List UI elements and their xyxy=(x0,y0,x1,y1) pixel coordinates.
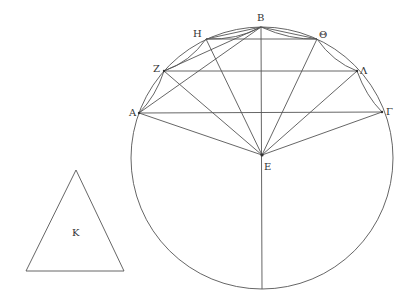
label-Z: Ζ xyxy=(153,63,160,74)
line-B-Theta xyxy=(261,27,317,39)
label-H: Η xyxy=(193,28,202,39)
arc-A-Z xyxy=(139,71,164,113)
label-A: Α xyxy=(128,107,137,118)
label-Theta: Θ xyxy=(319,29,327,40)
arc-Theta-Lambda xyxy=(317,39,357,71)
label-E: Ε xyxy=(264,161,271,172)
chord-A-Gamma xyxy=(139,112,382,113)
label-K: Κ xyxy=(72,227,80,238)
line-E-H xyxy=(206,39,262,155)
line-E-Gamma xyxy=(262,112,382,155)
line-E-Lambda xyxy=(262,71,357,155)
point-E xyxy=(260,153,263,156)
point-Gamma xyxy=(381,111,383,113)
line-B-bottom xyxy=(261,27,262,289)
line-E-Theta xyxy=(262,39,317,155)
arc-Lambda-Gamma xyxy=(357,71,382,112)
line-E-A xyxy=(139,113,262,155)
label-B: Β xyxy=(257,12,264,23)
label-Gamma: Γ xyxy=(386,106,393,117)
point-Z xyxy=(163,70,165,72)
point-A xyxy=(138,112,140,114)
point-Lambda xyxy=(356,70,358,72)
label-Lambda: Λ xyxy=(359,65,368,76)
euclid-diagram: Α Β Γ Ε Ζ Η Θ Λ Κ xyxy=(0,0,411,301)
triangle-K xyxy=(26,170,124,271)
